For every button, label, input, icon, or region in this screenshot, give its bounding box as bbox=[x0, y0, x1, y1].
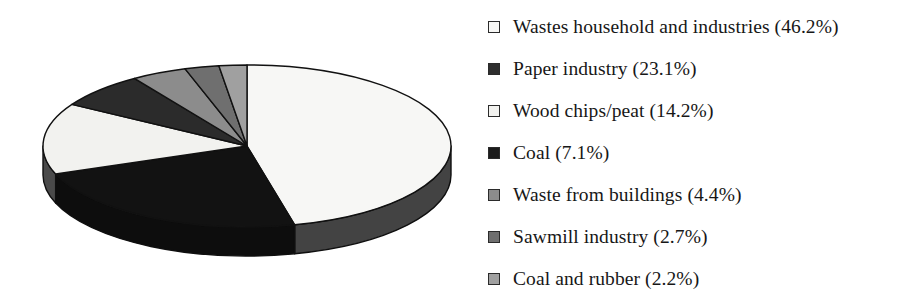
pie-chart-graphic bbox=[0, 0, 480, 302]
legend-label-sawmill-industry: Sawmill industry (2.7%) bbox=[513, 216, 708, 258]
legend-swatch-coal-and-rubber bbox=[488, 273, 500, 285]
legend-swatch-wood-chips-peat bbox=[488, 105, 500, 117]
legend-swatch-paper-industry bbox=[488, 63, 500, 75]
legend-item-paper-industry[interactable]: Paper industry (23.1%) bbox=[484, 48, 914, 90]
legend-label-wastes-household-and-industries: Wastes household and industries (46.2%) bbox=[513, 6, 839, 48]
legend-item-waste-from-buildings[interactable]: Waste from buildings (4.4%) bbox=[484, 174, 914, 216]
pie-chart-figure: Wastes household and industries (46.2%) … bbox=[0, 0, 914, 302]
legend-item-sawmill-industry[interactable]: Sawmill industry (2.7%) bbox=[484, 216, 914, 258]
pie-chart-svg bbox=[0, 0, 480, 302]
legend-item-coal[interactable]: Coal (7.1%) bbox=[484, 132, 914, 174]
legend-item-coal-and-rubber[interactable]: Coal and rubber (2.2%) bbox=[484, 258, 914, 300]
legend-label-coal: Coal (7.1%) bbox=[513, 132, 609, 174]
pie-top-faces bbox=[43, 65, 451, 227]
legend-item-wood-chips-peat[interactable]: Wood chips/peat (14.2%) bbox=[484, 90, 914, 132]
legend-swatch-sawmill-industry bbox=[488, 231, 500, 243]
chart-legend: Wastes household and industries (46.2%) … bbox=[484, 0, 914, 302]
legend-swatch-coal bbox=[488, 147, 500, 159]
legend-label-coal-and-rubber: Coal and rubber (2.2%) bbox=[513, 258, 699, 300]
legend-label-wood-chips-peat: Wood chips/peat (14.2%) bbox=[513, 90, 714, 132]
legend-swatch-wastes-household-and-industries bbox=[488, 21, 500, 33]
legend-label-paper-industry: Paper industry (23.1%) bbox=[513, 48, 697, 90]
legend-item-wastes-household-and-industries[interactable]: Wastes household and industries (46.2%) bbox=[484, 6, 914, 48]
legend-swatch-waste-from-buildings bbox=[488, 189, 500, 201]
legend-label-waste-from-buildings: Waste from buildings (4.4%) bbox=[513, 174, 742, 216]
